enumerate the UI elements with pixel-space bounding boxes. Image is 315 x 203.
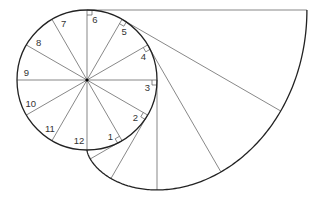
radius-line-2: [87, 80, 148, 115]
point-label-1: 1: [108, 131, 113, 142]
tangent-line-5: [122, 19, 281, 111]
point-label-3: 3: [145, 82, 150, 93]
tangent-lines: [87, 10, 307, 190]
radius-line-8: [26, 45, 87, 80]
center-point: [85, 78, 88, 81]
radius-line-5: [87, 19, 122, 80]
point-label-6: 6: [92, 14, 97, 25]
point-label-7: 7: [61, 18, 66, 29]
point-label-8: 8: [36, 37, 41, 48]
radius-line-4: [87, 45, 148, 80]
point-label-12: 12: [74, 135, 85, 146]
involute-diagram: 123456789101112: [0, 0, 315, 203]
point-label-9: 9: [24, 67, 29, 78]
point-label-4: 4: [141, 51, 146, 62]
radius-line-1: [87, 80, 122, 141]
tangent-line-2: [111, 115, 148, 178]
tangent-line-4: [148, 45, 221, 172]
point-label-11: 11: [45, 123, 55, 134]
point-label-2: 2: [133, 112, 138, 123]
radius-line-7: [52, 19, 87, 80]
point-label-5: 5: [121, 26, 126, 37]
radius-line-11: [52, 80, 87, 141]
point-label-10: 10: [25, 98, 36, 109]
